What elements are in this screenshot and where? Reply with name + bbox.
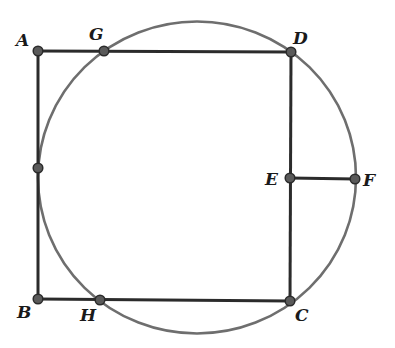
- label-A: A: [14, 30, 29, 50]
- label-D: D: [292, 28, 308, 48]
- segment-EF: [290, 178, 355, 179]
- points: [33, 46, 360, 306]
- label-C: C: [295, 305, 309, 325]
- point-E: [285, 173, 295, 183]
- segment-AD: [38, 51, 291, 52]
- point-A: [33, 46, 43, 56]
- point-F: [350, 174, 360, 184]
- label-G: G: [89, 24, 104, 44]
- label-F: F: [362, 170, 377, 190]
- point-C: [285, 296, 295, 306]
- point-D: [286, 47, 296, 57]
- label-B: B: [16, 302, 31, 322]
- point-B: [33, 294, 43, 304]
- label-E: E: [264, 169, 279, 189]
- point-G: [99, 46, 109, 56]
- geometry-diagram: A G D E F B H C: [0, 0, 395, 348]
- point-H: [95, 295, 105, 305]
- diagram-svg: A G D E F B H C: [0, 0, 395, 348]
- label-H: H: [79, 305, 97, 325]
- segment-BC: [38, 299, 290, 301]
- point-tangent: [33, 163, 43, 173]
